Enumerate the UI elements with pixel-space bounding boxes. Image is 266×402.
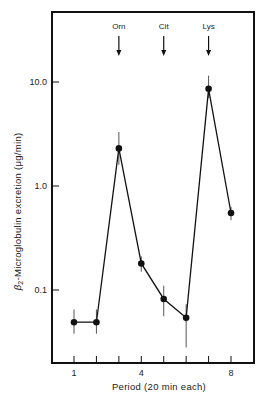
data-point [205,86,212,93]
annotation-label: Lys [203,22,215,31]
beta-subscript: 2 [17,280,24,284]
y-axis-label-text: -Microglobulin excretion (μg/min) [12,133,23,281]
chart-canvas: 148 0.11.010.0 OrnCitLys [0,0,266,402]
annotation-label: Orn [112,22,125,31]
arrowhead-icon [206,50,211,56]
data-point [71,319,78,326]
x-axis-ticks: 148 [71,356,233,378]
data-point [116,145,123,152]
arrowhead-icon [161,50,166,56]
y-tick-label: 0.1 [34,285,47,295]
data-point [160,296,167,303]
beta-symbol: β [12,285,23,291]
y-axis-label: β2-Microglobulin excretion (μg/min) [12,101,25,321]
arrowhead-icon [116,50,121,56]
x-tick-label: 4 [139,368,144,378]
data-point [93,319,100,326]
x-tick-label: 8 [229,368,234,378]
annotation-arrows: OrnCitLys [112,22,214,56]
y-tick-label: 10.0 [29,77,47,87]
y-tick-label: 1.0 [34,181,47,191]
x-tick-label: 1 [71,368,76,378]
data-point [228,210,235,217]
y-axis-ticks: 0.11.010.0 [29,77,59,295]
data-line [74,89,231,322]
data-points [71,86,235,326]
plot-frame [52,12,254,363]
annotation-label: Cit [159,22,170,31]
data-point [138,260,145,267]
data-point [183,315,190,322]
error-bars [74,76,231,348]
x-axis-label: Period (20 min each) [26,381,266,392]
